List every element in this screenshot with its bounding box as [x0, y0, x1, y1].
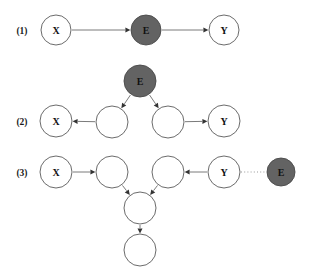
- edge-latent-left-to-collider: [122, 185, 126, 190]
- node-x-text: X: [52, 116, 60, 127]
- node-latent-left-circle: [96, 106, 128, 138]
- node-latent-right-circle: [152, 156, 184, 188]
- node-e: E: [267, 158, 295, 186]
- edge-latent-left-to-x-arrowhead: [73, 119, 78, 124]
- node-latent-right: [152, 156, 184, 188]
- node-y-text: Y: [220, 25, 228, 36]
- edge-e-to-latent-left: [124, 95, 130, 104]
- node-e: E: [124, 65, 156, 97]
- node-collider: [124, 192, 156, 224]
- node-latent-left: [96, 156, 128, 188]
- node-y: Y: [209, 15, 239, 45]
- node-y: Y: [208, 105, 240, 137]
- node-latent-right: [152, 106, 184, 138]
- node-x: X: [40, 105, 72, 137]
- node-e-text: E: [137, 76, 144, 87]
- causal-diagram-figure: XEYEXYXYE (1)(2)(3): [0, 0, 309, 278]
- node-y-text: Y: [220, 167, 228, 178]
- node-latent-right-circle: [152, 106, 184, 138]
- node-y: Y: [208, 156, 240, 188]
- node-e-text: E: [278, 167, 285, 178]
- node-descendant: [124, 234, 156, 266]
- node-y-text: Y: [220, 116, 228, 127]
- graph-canvas: XEYEXYXYE (1)(2)(3): [0, 0, 309, 278]
- edge-e-to-latent-right: [150, 95, 156, 104]
- edge-collider-to-descendant-arrowhead: [138, 228, 143, 233]
- edge-e-to-y-arrowhead: [203, 28, 208, 33]
- edge-x-to-latent-left-arrowhead: [90, 170, 95, 175]
- node-collider-circle: [124, 192, 156, 224]
- row-index-label: (1): [16, 26, 27, 37]
- node-x: X: [41, 15, 71, 45]
- row-index-label: (3): [16, 168, 27, 179]
- node-latent-left: [96, 106, 128, 138]
- row-labels-layer: (1)(2)(3): [16, 26, 27, 179]
- edge-latent-right-to-collider-arrowhead: [150, 189, 155, 194]
- node-e-text: E: [143, 25, 150, 36]
- edge-e-to-latent-right-arrowhead: [154, 103, 159, 109]
- node-latent-left-circle: [96, 156, 128, 188]
- nodes-layer: XEYEXYXYE: [40, 15, 295, 266]
- edge-y-to-latent-right-arrowhead: [185, 170, 190, 175]
- row-index-label: (2): [16, 117, 27, 128]
- edge-e-to-latent-left-arrowhead: [121, 103, 126, 109]
- node-descendant-circle: [124, 234, 156, 266]
- node-e: E: [131, 15, 161, 45]
- edge-latent-left-to-collider-arrowhead: [125, 189, 130, 194]
- edge-x-to-e-arrowhead: [125, 28, 130, 33]
- node-x-text: X: [52, 167, 60, 178]
- node-x-text: X: [52, 25, 60, 36]
- edge-latent-right-to-y-arrowhead: [202, 119, 207, 124]
- node-x: X: [40, 156, 72, 188]
- edge-latent-right-to-collider: [154, 185, 158, 190]
